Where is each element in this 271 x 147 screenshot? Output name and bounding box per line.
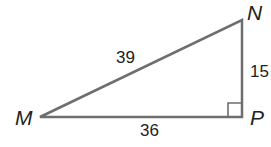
side-label-MN: 39 <box>116 49 135 66</box>
right-angle-marker <box>228 103 242 117</box>
vertex-label-M: M <box>15 107 33 128</box>
triangle-MNP <box>40 20 242 117</box>
vertex-label-N: N <box>247 2 262 23</box>
side-label-NP: 15 <box>250 63 269 80</box>
vertex-label-P: P <box>250 107 264 128</box>
side-label-MP: 36 <box>140 122 159 139</box>
triangle-figure <box>0 0 271 147</box>
